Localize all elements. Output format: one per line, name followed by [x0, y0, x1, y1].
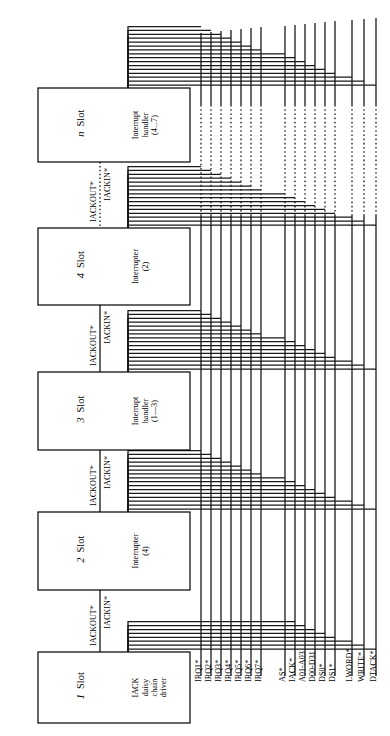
slot-role-line: Interrupt	[131, 396, 140, 425]
iackin-label: IACKIN*	[103, 311, 112, 344]
bus-signal-label: DTACK*	[369, 650, 378, 682]
iackin-label: IACKIN*	[103, 168, 112, 201]
slot-label-number: 4	[75, 272, 86, 278]
slot-box-slot-n	[38, 88, 190, 162]
iackout-label: IACKOUT*	[89, 465, 98, 506]
slot-label-number: 1	[75, 694, 86, 699]
bus-stub	[128, 454, 211, 512]
bus-stub	[128, 641, 352, 652]
slot-label-word: Slot	[75, 535, 86, 552]
slot-role-line: IACK	[131, 677, 140, 697]
slot-role-line: daisy	[141, 678, 150, 696]
bus-signal-label: IRQ2*	[204, 660, 213, 682]
bus-signal-label: DS1*	[328, 663, 337, 682]
slot-boxes-group	[38, 88, 190, 723]
slot-role-line: handler	[141, 112, 150, 137]
bus-stub	[128, 170, 211, 228]
bus-stub	[128, 217, 352, 228]
bus-signal-label: IRQ4*	[224, 660, 233, 682]
slot-role-line: (4...7)	[150, 115, 159, 135]
bus-signal-label: IRQ5*	[234, 660, 243, 682]
bus-stub	[128, 30, 211, 88]
bus-signal-label: AS*	[278, 667, 287, 682]
slot-role-line: Interrupter	[131, 249, 140, 284]
iackin-label: IACKIN*	[103, 456, 112, 489]
slot-role-line: chain	[150, 679, 159, 697]
slot-label-number: n	[75, 131, 86, 136]
slot-box-slot-2	[38, 512, 190, 590]
bus-stub	[128, 77, 352, 88]
bus-stub	[128, 501, 352, 512]
vmebus-interrupt-diagram: IRQ1*IRQ2*IRQ3*IRQ4*IRQ5*IRQ6*IRQ7*AS*IA…	[0, 0, 390, 736]
bus-signal-label: D00-D31	[308, 651, 317, 682]
bus-signal-label: LWORD*	[345, 648, 354, 682]
slot-role-line: (2)	[141, 261, 150, 271]
bus-signal-label: A01-A03	[298, 651, 307, 682]
iackout-label: IACKOUT*	[89, 181, 98, 222]
bus-signal-label: IRQ7*	[254, 660, 263, 682]
slot-role-line: (1—3)	[150, 400, 159, 422]
slot-label-word: Slot	[75, 109, 86, 126]
iackout-label: IACKOUT*	[89, 605, 98, 646]
slot-label-word: Slot	[75, 395, 86, 412]
bus-stub	[128, 314, 211, 372]
bus-signal-label: IRQ3*	[214, 660, 223, 682]
bus-signal-label: WRITE*	[357, 652, 366, 682]
diagram-canvas: IRQ1*IRQ2*IRQ3*IRQ4*IRQ5*IRQ6*IRQ7*AS*IA…	[0, 0, 390, 736]
slot-box-slot-4	[38, 228, 190, 305]
bus-signal-label: IRQ1*	[194, 660, 203, 682]
iackout-label: IACKOUT*	[89, 325, 98, 366]
bus-signal-label: IRQ6*	[244, 660, 253, 682]
slot-role-line: driver	[159, 677, 168, 697]
bus-stub	[128, 361, 352, 372]
bus-signal-label: DS0*	[318, 663, 327, 682]
iackin-label: IACKIN*	[103, 596, 112, 629]
slot-role-line: Interrupt	[131, 110, 140, 139]
slot-label-number: 3	[75, 417, 86, 423]
slot-role-line: handler	[141, 398, 150, 423]
slot-role-line: (4)	[141, 546, 150, 556]
slot-label-word: Slot	[75, 251, 86, 268]
slot-label-word: Slot	[75, 672, 86, 689]
slot-box-slot-3	[38, 372, 190, 450]
slot-role-line: Interrupter	[131, 533, 140, 568]
bus-lines-group	[201, 18, 376, 676]
bus-signal-label: IACK*	[288, 658, 297, 682]
slot-label-number: 2	[75, 557, 86, 563]
